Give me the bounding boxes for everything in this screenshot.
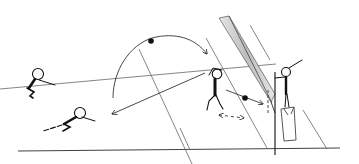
ball-icon bbox=[148, 38, 154, 44]
diagram-canvas bbox=[0, 0, 359, 164]
movement-double-arrow bbox=[219, 115, 244, 118]
drill-diagram bbox=[0, 0, 359, 164]
player-on-box bbox=[275, 60, 302, 107]
ball-icon-attack bbox=[242, 95, 248, 101]
ball-arc-arrow bbox=[113, 36, 207, 98]
player-squat bbox=[27, 69, 55, 99]
pass-arrow bbox=[112, 73, 205, 114]
player-dive bbox=[43, 108, 95, 132]
ground-line bbox=[18, 148, 340, 151]
player-blocker-center bbox=[207, 68, 223, 110]
net-band bbox=[219, 16, 275, 102]
platform-box bbox=[281, 107, 296, 141]
court-lines bbox=[0, 25, 327, 164]
